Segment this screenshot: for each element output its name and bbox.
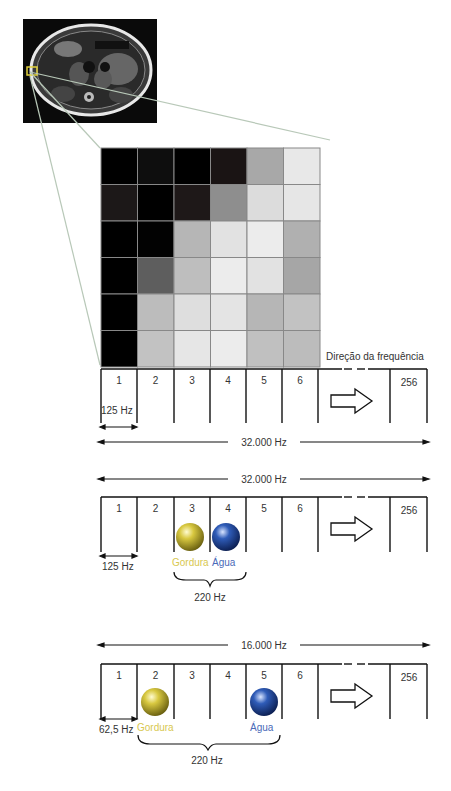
cell-number: 3 <box>189 375 195 386</box>
pixel-bandwidth-label-3: 62,5 Hz <box>99 724 133 735</box>
pixel-cell <box>138 221 175 258</box>
pixel-cell <box>247 148 284 185</box>
water-label-3: Água <box>250 721 274 733</box>
pixel-cell <box>247 331 284 368</box>
pixel-cell <box>138 185 175 222</box>
frequency-diagram: Direção da frequência 123456256 125 Hz 3… <box>0 0 451 791</box>
pixel-cell <box>138 331 175 368</box>
pixel-cell <box>138 148 175 185</box>
pixel-cell <box>284 185 321 222</box>
pixel-cell <box>284 221 321 258</box>
pixel-cell <box>211 148 248 185</box>
cell-number: 6 <box>297 375 303 386</box>
pixel-cell <box>174 185 211 222</box>
cell-number: 3 <box>189 670 195 681</box>
diagram-16000hz: 16.000 Hz 123456256 62,5 Hz Gordura Água… <box>98 640 429 766</box>
total-bandwidth-label: 32.000 Hz <box>241 437 287 448</box>
water-label: Água <box>212 556 236 568</box>
pixel-cell <box>284 258 321 295</box>
pixel-cell <box>247 258 284 295</box>
cell-number: 2 <box>153 375 159 386</box>
pixel-cell <box>211 221 248 258</box>
cell-number: 2 <box>153 670 159 681</box>
direction-label: Direção da frequência <box>326 351 424 362</box>
cell-number-last: 256 <box>401 377 418 388</box>
pixel-cell <box>174 294 211 331</box>
cell-number: 5 <box>261 670 267 681</box>
pixel-bandwidth-arrow-2 <box>100 554 137 558</box>
cell-number: 5 <box>261 375 267 386</box>
pixel-cell <box>174 258 211 295</box>
pixel-cell <box>247 185 284 222</box>
arrow-right-icon <box>331 389 372 413</box>
shift-brace-3 <box>138 735 280 750</box>
pixel-bandwidth-label: 125 Hz <box>101 405 133 416</box>
cell-number: 5 <box>261 503 267 514</box>
pixel-cell <box>101 331 138 368</box>
pixel-bandwidth-label-2: 125 Hz <box>102 561 134 572</box>
pixel-cell <box>211 258 248 295</box>
pixel-cell <box>138 258 175 295</box>
pixel-bandwidth-arrow <box>100 425 137 429</box>
arrow-right-icon <box>331 684 372 708</box>
pixel-cell <box>174 221 211 258</box>
shift-label: 220 Hz <box>194 592 226 603</box>
cell-number: 1 <box>116 503 122 514</box>
diagram-32000hz: 32.000 Hz 123456256 125 Hz Gordura Água … <box>98 474 429 603</box>
total-bandwidth-label-3: 16.000 Hz <box>241 640 287 651</box>
pixel-cell <box>174 331 211 368</box>
fat-label-3: Gordura <box>137 722 174 733</box>
cell-number: 1 <box>116 670 122 681</box>
pixel-cell <box>284 148 321 185</box>
pixel-cell <box>211 294 248 331</box>
cell-number-last: 256 <box>401 505 418 516</box>
pixel-cell <box>211 185 248 222</box>
shift-brace <box>174 572 246 586</box>
water-sphere <box>212 523 240 551</box>
pixel-cell <box>101 185 138 222</box>
water-sphere-3 <box>250 688 278 716</box>
pixel-cell <box>138 294 175 331</box>
pixel-cell <box>247 294 284 331</box>
cell-number: 4 <box>225 375 231 386</box>
pixel-cell <box>211 331 248 368</box>
fat-label: Gordura <box>172 557 209 568</box>
pixel-cell <box>101 221 138 258</box>
pixel-cell <box>101 148 138 185</box>
cell-number: 6 <box>297 503 303 514</box>
cell-number: 4 <box>225 670 231 681</box>
pixel-cell <box>284 294 321 331</box>
fat-sphere-3 <box>141 688 169 716</box>
cell-number: 6 <box>297 670 303 681</box>
arrow-right-icon <box>331 517 372 541</box>
total-bandwidth-label-2: 32.000 Hz <box>241 474 287 485</box>
pixel-bandwidth-arrow-3 <box>100 717 137 721</box>
pixel-cell <box>284 331 321 368</box>
cell-number-last: 256 <box>401 672 418 683</box>
pixel-cell <box>101 294 138 331</box>
shift-label-3: 220 Hz <box>191 755 223 766</box>
cell-number: 4 <box>225 503 231 514</box>
pixel-cell <box>247 221 284 258</box>
cell-number: 3 <box>189 503 195 514</box>
fat-sphere <box>176 523 204 551</box>
pixel-cell <box>101 258 138 295</box>
pixel-grid <box>101 148 320 367</box>
pixel-cell <box>174 148 211 185</box>
cell-number: 2 <box>153 503 159 514</box>
cell-number: 1 <box>116 375 122 386</box>
